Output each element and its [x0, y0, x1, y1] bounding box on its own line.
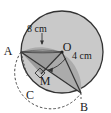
point-label-m: M: [40, 74, 51, 88]
point-label-a: A: [4, 44, 13, 58]
point-label-o: O: [63, 40, 72, 54]
geometry-diagram-svg: A O B C M 8 cm 4 cm: [0, 0, 111, 113]
dimension-label-8cm: 8 cm: [27, 23, 47, 34]
geometry-figure: A O B C M 8 cm 4 cm: [0, 0, 111, 113]
point-label-b: B: [80, 100, 88, 113]
point-label-c: C: [26, 88, 34, 102]
dimension-label-4cm: 4 cm: [72, 50, 92, 61]
